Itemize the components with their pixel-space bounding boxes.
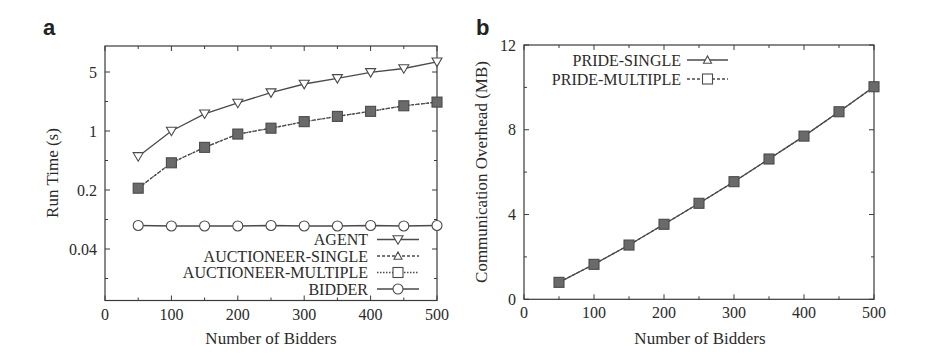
legend-a: AGENTAUCTIONEER-SINGLEAUCTIONEER-MULTIPL… [183,231,419,298]
square-marker [393,268,403,278]
circle-marker [299,221,309,231]
series-group-a [133,58,442,231]
circle-marker [399,221,409,231]
series-line-auctioneer-single [138,102,437,188]
figure: a 0100200300400500510.20.04 AGENTAUCTION… [0,0,927,361]
y-axis-label-a: Run Time (s) [43,128,62,218]
legend-label: PRIDE-SINGLE [573,52,681,69]
circle-marker [200,221,210,231]
x-axis-label-b: Number of Bidders [634,329,765,348]
x-tick-label: 300 [292,306,316,323]
y-tick-label: 5 [89,64,97,81]
square-marker [869,82,879,92]
y-tick-label: 0.04 [69,241,97,258]
square-marker [200,142,210,152]
series-group-b [554,82,879,288]
panel-label-a: a [43,15,56,40]
square-marker [233,129,243,139]
x-tick-label: 100 [582,304,606,321]
x-tick-label: 0 [101,306,109,323]
legend-label: BIDDER [308,281,368,298]
x-tick-label: 500 [425,306,449,323]
circle-marker [432,220,442,230]
legend-label: AUCTIONEER-SINGLE [204,248,368,265]
y-axis-label-b: Communication Overhead (MB) [472,61,491,283]
square-marker [624,240,634,250]
chart-panel-b: b 010020030040050004812 PRIDE-SINGLEPRID… [472,15,886,348]
square-marker [799,131,809,141]
circle-marker [233,221,243,231]
triangle-down-marker [200,110,210,119]
circle-marker [266,220,276,230]
y-tick-label: 1 [89,123,97,140]
circle-marker [366,220,376,230]
x-tick-label: 100 [159,306,183,323]
square-marker [266,123,276,133]
square-marker [366,106,376,116]
axis-ticks-a: 0100200300400500510.20.04 [69,46,449,323]
square-marker [703,74,713,84]
x-tick-label: 0 [520,304,528,321]
legend-label: AUCTIONEER-MULTIPLE [183,264,368,281]
square-marker [694,198,704,208]
chart-panel-a: a 0100200300400500510.20.04 AGENTAUCTION… [43,15,449,348]
x-tick-label: 200 [226,306,250,323]
x-tick-label: 200 [652,304,676,321]
square-marker [659,219,669,229]
square-marker [299,117,309,127]
series-line-pride-single [559,87,874,283]
triangle-down-marker [133,153,143,162]
circle-marker [133,220,143,230]
series-line-agent [138,62,437,157]
series-line-pride-multiple [559,87,874,283]
square-marker [332,111,342,121]
circle-marker [332,221,342,231]
y-tick-label: 0.2 [77,182,97,199]
y-tick-label: 12 [500,37,516,54]
x-tick-label: 500 [862,304,886,321]
y-tick-label: 0 [508,291,516,308]
square-marker [133,183,143,193]
square-marker [834,107,844,117]
series-line-bidder [138,226,437,227]
series-line-auctioneer-multiple [138,102,437,188]
square-marker [554,277,564,287]
legend-label: AGENT [314,231,368,248]
square-marker [764,154,774,164]
square-marker [729,177,739,187]
square-marker [399,101,409,111]
square-marker [589,259,599,269]
circle-marker [166,221,176,231]
legend-b: PRIDE-SINGLEPRIDE-MULTIPLE [552,52,728,88]
panel-label-b: b [476,15,489,40]
triangle-up-marker [394,252,402,259]
y-tick-label: 4 [508,206,516,223]
circle-marker [393,284,403,294]
x-tick-label: 400 [792,304,816,321]
square-marker [166,158,176,168]
square-marker [432,97,442,107]
x-tick-label: 400 [359,306,383,323]
x-tick-label: 300 [722,304,746,321]
x-axis-label-a: Number of Bidders [205,329,336,348]
legend-label: PRIDE-MULTIPLE [552,71,681,88]
y-tick-label: 8 [508,121,516,138]
